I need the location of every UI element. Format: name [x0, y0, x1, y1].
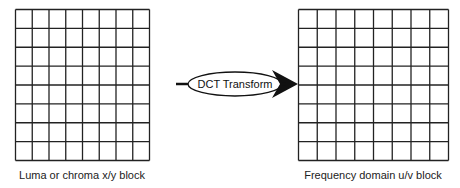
dct-arrow: DCT Transform	[176, 70, 298, 98]
diagram-canvas: DCT Transform	[0, 0, 460, 188]
transform-label: DCT Transform	[198, 78, 273, 90]
right-block-caption: Frequency domain u/v block	[298, 169, 448, 181]
left-block-caption: Luma or chroma x/y block	[15, 169, 149, 181]
right-grid	[299, 10, 449, 161]
left-grid	[16, 10, 150, 161]
